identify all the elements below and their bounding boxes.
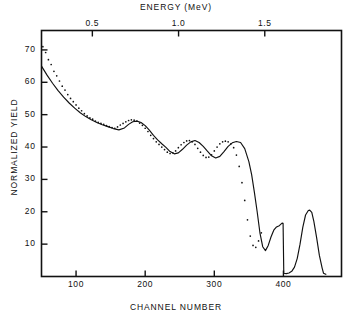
data-point <box>48 59 50 61</box>
data-point <box>56 75 58 77</box>
data-point <box>230 143 232 145</box>
data-point <box>197 147 199 149</box>
data-point <box>89 117 91 119</box>
data-point <box>147 131 149 133</box>
data-point <box>180 144 182 146</box>
data-point <box>164 149 166 151</box>
simulation-curve <box>42 66 327 274</box>
data-point <box>194 144 196 146</box>
data-point <box>86 115 88 117</box>
data-point <box>128 120 130 122</box>
data-point <box>42 46 44 48</box>
data-point <box>92 118 94 120</box>
data-point <box>100 123 102 125</box>
data-point <box>244 200 246 202</box>
data-point <box>81 110 83 112</box>
data-point <box>178 147 180 149</box>
data-point <box>208 156 210 158</box>
plot-area <box>0 0 352 315</box>
experimental-data-points <box>42 46 262 248</box>
data-point <box>249 235 251 237</box>
data-point <box>202 155 204 157</box>
data-point <box>191 141 193 143</box>
data-point <box>50 64 52 66</box>
data-point <box>189 140 191 142</box>
data-point <box>108 126 110 128</box>
data-point <box>260 232 262 234</box>
data-point <box>241 182 243 184</box>
data-point <box>70 98 72 100</box>
data-point <box>169 153 171 155</box>
data-point <box>144 127 146 129</box>
data-point <box>238 166 240 168</box>
data-point <box>172 152 174 154</box>
data-point <box>158 144 160 146</box>
data-point <box>84 113 86 115</box>
data-point <box>133 119 135 121</box>
data-point <box>255 247 257 249</box>
figure-container: ENERGY (MeV) CHANNEL NUMBER NORMALIZED Y… <box>0 0 352 315</box>
data-point <box>225 140 227 142</box>
data-point <box>142 124 144 126</box>
data-point <box>183 142 185 144</box>
data-point <box>139 122 141 124</box>
data-point <box>114 127 116 129</box>
data-point <box>216 146 218 148</box>
data-point <box>200 151 202 153</box>
data-point <box>205 157 207 159</box>
data-point <box>53 70 55 72</box>
data-point <box>213 150 215 152</box>
data-point <box>252 245 254 247</box>
data-point <box>258 240 260 242</box>
data-point <box>72 101 74 103</box>
data-point <box>75 104 77 106</box>
data-point <box>150 135 152 137</box>
data-point <box>122 123 124 125</box>
data-point <box>227 141 229 143</box>
data-point <box>125 121 127 123</box>
data-point <box>186 140 188 142</box>
data-point <box>211 154 213 156</box>
data-point <box>161 146 163 148</box>
data-point <box>111 127 113 129</box>
data-point <box>136 120 138 122</box>
data-point <box>78 107 80 109</box>
data-point <box>233 147 235 149</box>
data-point <box>67 94 69 96</box>
data-point <box>175 150 177 152</box>
data-point <box>155 141 157 143</box>
data-point <box>131 119 133 121</box>
data-point <box>119 124 121 126</box>
data-point <box>153 138 155 140</box>
data-point <box>97 122 99 124</box>
data-point <box>117 126 119 128</box>
data-point <box>45 52 47 54</box>
data-point <box>103 124 105 126</box>
data-point <box>166 151 168 153</box>
axis-tick-marks <box>42 31 284 277</box>
data-point <box>247 219 249 221</box>
axes-frame <box>42 31 342 277</box>
data-point <box>222 141 224 143</box>
data-point <box>106 125 108 127</box>
data-point <box>219 143 221 145</box>
data-point <box>236 154 238 156</box>
data-point <box>61 85 63 87</box>
data-point <box>64 89 66 91</box>
data-point <box>95 120 97 122</box>
data-point <box>59 80 61 82</box>
